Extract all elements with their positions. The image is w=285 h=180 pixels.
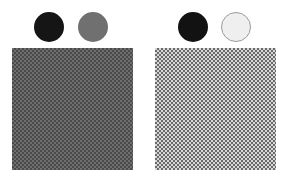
left-pattern-panel <box>12 48 133 170</box>
left-dark-swatch <box>34 12 64 42</box>
right-light-swatch <box>221 12 251 42</box>
left-gray-swatch <box>78 12 108 42</box>
right-pattern-panel <box>155 48 276 170</box>
right-dark-swatch <box>178 12 208 42</box>
